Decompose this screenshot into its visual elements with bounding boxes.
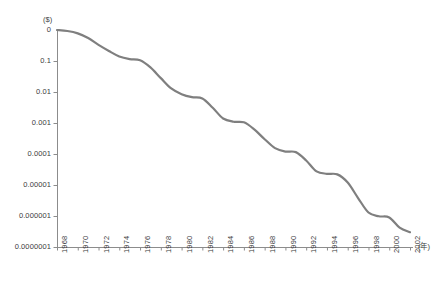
x-axis-tick-label: 1972 bbox=[102, 236, 111, 254]
x-axis-tick-label: 1968 bbox=[60, 236, 69, 254]
x-axis-tick-label: 1984 bbox=[226, 236, 235, 254]
y-axis-tick-label: 0.01 bbox=[36, 87, 51, 96]
x-axis-tick-label: 1990 bbox=[289, 236, 298, 254]
x-axis-tick-label: 1976 bbox=[143, 236, 152, 254]
x-axis-tick-label: 1988 bbox=[268, 236, 277, 254]
y-axis-tick-label: 0.0001 bbox=[27, 149, 51, 158]
line-chart: ($) (年) 00.10.010.0010.00010.000010.0000… bbox=[0, 0, 443, 292]
x-axis-tick-label: 1994 bbox=[330, 236, 339, 254]
x-axis-tick-label: 1986 bbox=[247, 236, 256, 254]
y-axis-ticks bbox=[54, 62, 58, 248]
x-axis-tick-label: 1980 bbox=[185, 236, 194, 254]
y-axis-tick-label: 0.1 bbox=[40, 56, 51, 65]
y-axis-tick-label: 0.000001 bbox=[19, 211, 51, 220]
x-axis-tick-label: 2000 bbox=[392, 236, 401, 254]
x-axis-tick-label: 2002 bbox=[413, 236, 422, 254]
y-axis-tick-label: 0.00001 bbox=[23, 180, 51, 189]
data-series-line bbox=[57, 30, 410, 232]
y-axis-unit-label: ($) bbox=[43, 15, 52, 24]
x-axis-tick-label: 1992 bbox=[309, 236, 318, 254]
y-axis-tick-label: 0.0000001 bbox=[15, 242, 51, 251]
x-axis-tick-label: 1982 bbox=[206, 236, 215, 254]
x-axis-tick-label: 1970 bbox=[81, 236, 90, 254]
y-axis-tick-label: 0.001 bbox=[32, 118, 51, 127]
x-axis-tick-label: 1998 bbox=[372, 236, 381, 254]
x-axis-tick-label: 1996 bbox=[351, 236, 360, 254]
x-axis-tick-label: 1974 bbox=[122, 236, 131, 254]
x-axis-tick-label: 1978 bbox=[164, 236, 173, 254]
y-axis-tick-label: 0 bbox=[47, 25, 51, 34]
